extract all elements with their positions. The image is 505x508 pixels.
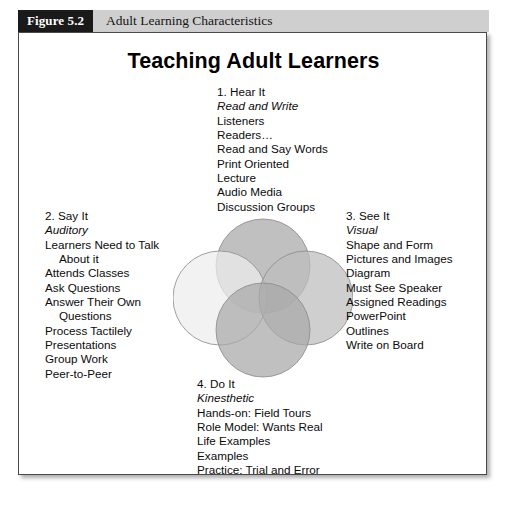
figure-root: Figure 5.2 Adult Learning Characteristic… xyxy=(0,0,505,508)
quadrant-say-item: Ask Questions xyxy=(45,281,159,295)
quadrant-see-item: Must See Speaker xyxy=(346,281,453,295)
quadrant-see-it: 3. See It Visual Shape and Form Pictures… xyxy=(346,209,453,352)
quadrant-say-item: Group Work xyxy=(45,352,159,366)
quadrant-see-item: Assigned Readings xyxy=(346,295,453,309)
venn-diagram-svg xyxy=(173,218,353,378)
quadrant-hear-item: Lecture xyxy=(217,171,328,185)
quadrant-hear-item: Read and Say Words xyxy=(217,142,328,156)
figure-main-title: Teaching Adult Learners xyxy=(19,49,488,74)
quadrant-do-it: 4. Do It Kinesthetic Hands-on: Field Tou… xyxy=(197,377,323,477)
quadrant-hear-item: Readers… xyxy=(217,128,328,142)
quadrant-say-heading: 2. Say It xyxy=(45,209,159,223)
quadrant-see-item: Pictures and Images xyxy=(346,252,453,266)
quadrant-hear-item: Audio Media xyxy=(217,185,328,199)
quadrant-see-item: Outlines xyxy=(346,324,453,338)
quadrant-do-item: Practice: Trial and Error xyxy=(197,463,323,477)
quadrant-do-item: Hands-on: Field Tours xyxy=(197,406,323,420)
quadrant-do-item: Examples xyxy=(197,449,323,463)
quadrant-say-item: Questions xyxy=(45,309,159,323)
quadrant-say-it: 2. Say It Auditory Learners Need to Talk… xyxy=(45,209,159,381)
quadrant-hear-item: Print Oriented xyxy=(217,157,328,171)
quadrant-hear-heading: 1. Hear It xyxy=(217,85,328,99)
quadrant-say-item: Answer Their Own xyxy=(45,295,159,309)
quadrant-see-item: PowerPoint xyxy=(346,309,453,323)
quadrant-say-item: Peer-to-Peer xyxy=(45,367,159,381)
quadrant-see-item: Shape and Form xyxy=(346,238,453,252)
do-circle xyxy=(216,283,310,377)
quadrant-do-item: Life Examples xyxy=(197,434,323,448)
quadrant-say-item: About it xyxy=(45,252,159,266)
figure-caption-bar: Figure 5.2 Adult Learning Characteristic… xyxy=(18,10,489,32)
quadrant-see-item: Write on Board xyxy=(346,338,453,352)
quadrant-say-item: Attends Classes xyxy=(45,266,159,280)
quadrant-see-heading: 3. See It xyxy=(346,209,453,223)
figure-caption-title: Adult Learning Characteristics xyxy=(93,10,272,32)
quadrant-hear-subtitle: Read and Write xyxy=(217,99,328,113)
quadrant-hear-it: 1. Hear It Read and Write Listeners Read… xyxy=(217,85,328,214)
quadrant-hear-item: Listeners xyxy=(217,114,328,128)
quadrant-hear-item: Discussion Groups xyxy=(217,200,328,214)
quadrant-do-heading: 4. Do It xyxy=(197,377,323,391)
quadrant-say-item: Process Tactilely xyxy=(45,324,159,338)
figure-number-badge: Figure 5.2 xyxy=(18,10,93,32)
quadrant-say-item: Presentations xyxy=(45,338,159,352)
quadrant-say-subtitle: Auditory xyxy=(45,223,159,237)
quadrant-see-item: Diagram xyxy=(346,266,453,280)
quadrant-see-subtitle: Visual xyxy=(346,223,453,237)
figure-frame: Teaching Adult Learners 1. Hear It Read … xyxy=(18,32,487,475)
quadrant-do-item: Role Model: Wants Real xyxy=(197,420,323,434)
quadrant-do-subtitle: Kinesthetic xyxy=(197,391,323,405)
quadrant-say-item: Learners Need to Talk xyxy=(45,238,159,252)
venn-diagram xyxy=(173,218,353,378)
